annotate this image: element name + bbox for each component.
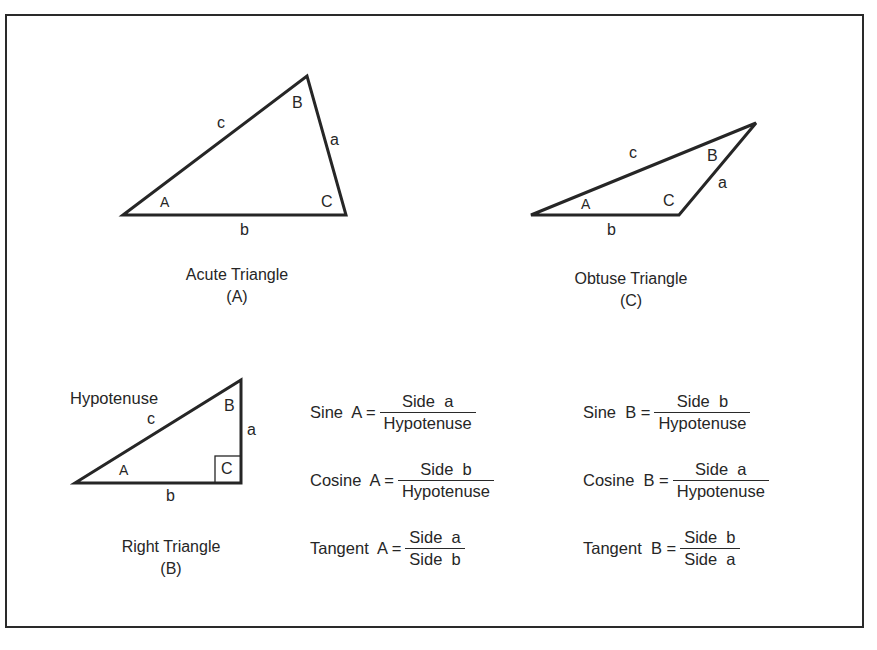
- cosine-a-numerator: Side b: [416, 460, 475, 480]
- sine-a-denominator: Hypotenuse: [380, 412, 476, 433]
- tangent-a-numerator: Side a: [405, 528, 464, 548]
- obtuse-vertex-c-label: C: [663, 193, 675, 209]
- acute-vertex-b-label: B: [292, 95, 303, 111]
- right-side-c-label: c: [147, 411, 155, 427]
- tangent-a-formula: Tangent A = Side a Side b: [310, 528, 465, 569]
- sine-b-formula: Sine B = Side b Hypotenuse: [583, 392, 750, 433]
- right-vertex-c-label: C: [221, 461, 233, 477]
- cosine-a-lhs: Cosine A =: [310, 471, 394, 490]
- tangent-a-denominator: Side b: [405, 548, 464, 569]
- right-triangle-tag: (B): [71, 558, 271, 580]
- right-triangle-caption: Right Triangle (B): [71, 536, 271, 580]
- cosine-a-denominator: Hypotenuse: [398, 480, 494, 501]
- obtuse-triangle-caption: Obtuse Triangle (C): [531, 268, 731, 312]
- right-side-a-label: a: [247, 422, 256, 438]
- acute-vertex-c-label: C: [321, 194, 333, 210]
- tangent-b-formula: Tangent B = Side b Side a: [583, 528, 740, 569]
- obtuse-vertex-b-label: B: [707, 148, 718, 164]
- acute-triangle-title: Acute Triangle: [137, 264, 337, 286]
- acute-triangle-caption: Acute Triangle (A): [137, 264, 337, 308]
- obtuse-vertex-a-label: A: [581, 197, 590, 211]
- cosine-b-numerator: Side a: [691, 460, 750, 480]
- tangent-b-denominator: Side a: [680, 548, 739, 569]
- obtuse-side-a-label: a: [718, 175, 727, 191]
- tangent-a-lhs: Tangent A =: [310, 539, 401, 558]
- obtuse-triangle-title: Obtuse Triangle: [531, 268, 731, 290]
- hypotenuse-label: Hypotenuse: [70, 390, 158, 407]
- sine-a-lhs: Sine A =: [310, 403, 376, 422]
- tangent-b-numerator: Side b: [680, 528, 739, 548]
- right-side-b-label: b: [166, 488, 175, 504]
- sine-a-formula: Sine A = Side a Hypotenuse: [310, 392, 476, 433]
- acute-vertex-a-label: A: [160, 195, 169, 209]
- cosine-a-formula: Cosine A = Side b Hypotenuse: [310, 460, 494, 501]
- tangent-b-lhs: Tangent B =: [583, 539, 676, 558]
- sine-b-denominator: Hypotenuse: [654, 412, 750, 433]
- obtuse-side-c-label: c: [629, 145, 637, 161]
- right-triangle-title: Right Triangle: [71, 536, 271, 558]
- cosine-b-lhs: Cosine B =: [583, 471, 669, 490]
- tangent-b-fraction: Side b Side a: [680, 528, 739, 569]
- obtuse-triangle-tag: (C): [531, 290, 731, 312]
- acute-side-b-label: b: [240, 222, 249, 238]
- tangent-a-fraction: Side a Side b: [405, 528, 464, 569]
- right-vertex-a-label: A: [119, 463, 128, 477]
- obtuse-triangle-shape: [531, 123, 756, 215]
- acute-triangle-tag: (A): [137, 286, 337, 308]
- right-vertex-b-label: B: [224, 398, 235, 414]
- cosine-b-fraction: Side a Hypotenuse: [673, 460, 769, 501]
- acute-side-a-label: a: [330, 132, 339, 148]
- cosine-b-denominator: Hypotenuse: [673, 480, 769, 501]
- cosine-b-formula: Cosine B = Side a Hypotenuse: [583, 460, 769, 501]
- sine-b-numerator: Side b: [673, 392, 732, 412]
- sine-b-fraction: Side b Hypotenuse: [654, 392, 750, 433]
- cosine-a-fraction: Side b Hypotenuse: [398, 460, 494, 501]
- sine-b-lhs: Sine B =: [583, 403, 650, 422]
- obtuse-side-b-label: b: [607, 222, 616, 238]
- sine-a-numerator: Side a: [398, 392, 457, 412]
- acute-side-c-label: c: [217, 115, 225, 131]
- acute-triangle-shape: [123, 76, 346, 215]
- sine-a-fraction: Side a Hypotenuse: [380, 392, 476, 433]
